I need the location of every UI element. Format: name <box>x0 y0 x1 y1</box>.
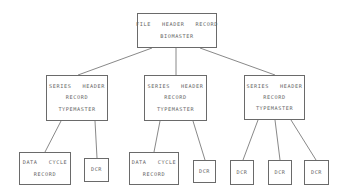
dcr-box: DCR <box>193 160 216 183</box>
series-header-record-box: SERIES HEADERRECORDTYPEMASTER <box>144 75 207 121</box>
box-label: DATA CYCLE <box>132 160 177 165</box>
box-label: DATA CYCLE <box>23 160 68 165</box>
connector-line <box>45 121 61 152</box>
dcr-box: DCR <box>230 160 254 185</box>
dcr-box: DCR <box>304 160 329 185</box>
box-label: FILE HEADER RECORD <box>136 22 218 27</box>
box-label: RECORD <box>66 95 88 100</box>
data-cycle-record-box: DATA CYCLERECORD <box>19 152 71 185</box>
box-label: TYPEMASTER <box>58 107 95 112</box>
dcr-box: DCR <box>268 160 292 185</box>
connector-line <box>193 121 205 160</box>
box-label: SERIES HEADER <box>247 84 303 89</box>
file-header-record-box: FILE HEADER RECORDBIOMASTER <box>137 13 217 48</box>
box-label: SERIES HEADER <box>148 84 204 89</box>
box-label: DCR <box>91 167 102 172</box>
connector-line <box>154 121 160 152</box>
connector-line <box>78 48 152 75</box>
box-label: RECORD <box>143 172 165 177</box>
data-cycle-record-box: DATA CYCLERECORD <box>129 152 179 185</box>
dcr-box: DCR <box>84 158 109 182</box>
box-label: RECORD <box>263 95 285 100</box>
series-header-record-box: SERIES HEADERRECORDTYPEMASTER <box>244 75 305 120</box>
box-label: DCR <box>311 170 322 175</box>
connector-line <box>243 120 258 160</box>
box-label: DCR <box>199 169 210 174</box>
box-label: SERIES HEADER <box>49 84 105 89</box>
box-label: TYPEMASTER <box>256 106 293 111</box>
box-label: DCR <box>236 170 247 175</box>
connector-line <box>275 120 280 160</box>
connector-line <box>200 48 275 75</box>
box-label: TYPEMASTER <box>157 107 194 112</box>
series-header-record-box: SERIES HEADERRECORDTYPEMASTER <box>46 75 108 121</box>
box-label: BIOMASTER <box>160 34 194 39</box>
connector-line <box>95 121 97 158</box>
box-label: DCR <box>274 170 285 175</box>
box-label: RECORD <box>34 172 56 177</box>
connector-line <box>291 120 316 160</box>
box-label: RECORD <box>164 95 186 100</box>
